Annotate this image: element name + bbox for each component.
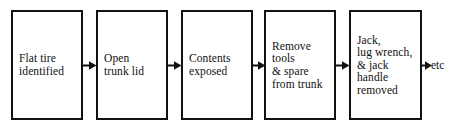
flowchart-continuation-label: etc [431,59,444,71]
flowchart-arrow-icon-1 [82,60,97,71]
flowchart-arrow-icon-2 [167,60,182,71]
flowchart-step-label-2: Open trunk lid [98,52,147,77]
flowchart-canvas: Flat tire identified Open trunk lid Cont… [0,0,456,131]
flowchart-step-box-4[interactable]: Remove tools & spare from trunk [264,10,336,120]
flowchart-step-box-1[interactable]: Flat tire identified [11,10,83,120]
flowchart-step-box-2[interactable]: Open trunk lid [96,10,168,120]
flowchart-arrow-icon-3 [251,60,266,71]
flowchart-step-box-3[interactable]: Contents exposed [181,10,253,120]
flowchart-step-box-5[interactable]: Jack, lug wrench, & jack handle removed [349,10,422,120]
flowchart-arrow-icon-4 [335,60,350,71]
flowchart-step-label-3: Contents exposed [183,52,234,77]
flowchart-step-label-5: Jack, lug wrench, & jack handle removed [351,34,415,97]
flowchart-step-label-4: Remove tools & spare from trunk [266,40,326,90]
flowchart-step-label-1: Flat tire identified [13,52,67,77]
